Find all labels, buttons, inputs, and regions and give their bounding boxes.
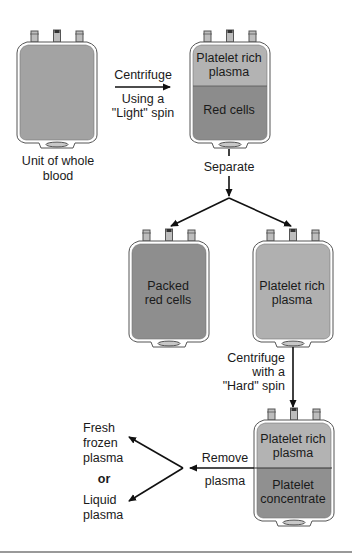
hard-spin-line2: with a: [251, 365, 285, 379]
hard-spin-line3: "Hard" spin: [223, 379, 285, 393]
hard-spun-bag: [254, 408, 334, 526]
liquid-line1: Liquid: [83, 493, 116, 507]
light-spin-label-below1: Using a: [122, 92, 164, 106]
hard-spun-bottom-line2: concentrate: [260, 492, 325, 506]
or-label: or: [98, 472, 111, 486]
light-spun-bag: [190, 30, 270, 148]
whole-blood-bag: [17, 30, 97, 148]
ffp-line1: Fresh: [83, 421, 115, 435]
whole-blood-caption-line1: Unit of whole: [22, 154, 94, 168]
light-spin-label-below2: "Light" spin: [112, 106, 174, 120]
light-spin-label-above: Centrifuge: [114, 68, 172, 82]
bottom-rule: [0, 551, 352, 553]
ffp-line2: frozen: [83, 436, 118, 450]
packed-bag-line2: red cells: [145, 293, 192, 307]
ffp-arrow: [129, 437, 183, 468]
remove-label-line2: plasma: [205, 474, 245, 488]
light-spun-top-line1: Platelet rich: [196, 51, 261, 65]
hard-spun-top-line1: Platelet rich: [260, 432, 325, 446]
whole-blood-caption-line2: blood: [43, 169, 74, 183]
light-spun-top-line2: plasma: [209, 65, 249, 79]
blood-component-diagram: Unit of whole blood Centrifuge Using a "…: [0, 0, 352, 555]
split-arrow-right: [229, 198, 291, 226]
split-arrow-left: [171, 198, 229, 226]
hard-spun-bottom-line1: Platelet: [272, 478, 314, 492]
hard-spun-top-line2: plasma: [273, 446, 313, 460]
light-spun-bottom-line1: Red cells: [203, 103, 254, 117]
remove-label-line1: Remove: [202, 451, 249, 465]
ffp-line3: plasma: [83, 451, 123, 465]
separate-label: Separate: [204, 160, 255, 174]
hard-spin-line1: Centrifuge: [227, 351, 285, 365]
prp-bag-line1: Platelet rich: [259, 279, 324, 293]
prp-bag-line2: plasma: [272, 293, 312, 307]
liquid-line2: plasma: [83, 508, 123, 522]
liquid-plasma-arrow: [129, 468, 183, 501]
packed-bag-line1: Packed: [147, 279, 189, 293]
